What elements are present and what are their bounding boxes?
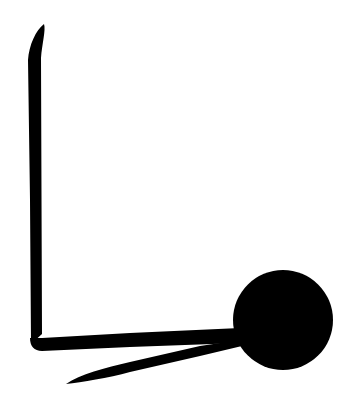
pictogram: [0, 0, 352, 406]
circle: [233, 270, 333, 370]
vertical-stroke: [28, 24, 45, 344]
